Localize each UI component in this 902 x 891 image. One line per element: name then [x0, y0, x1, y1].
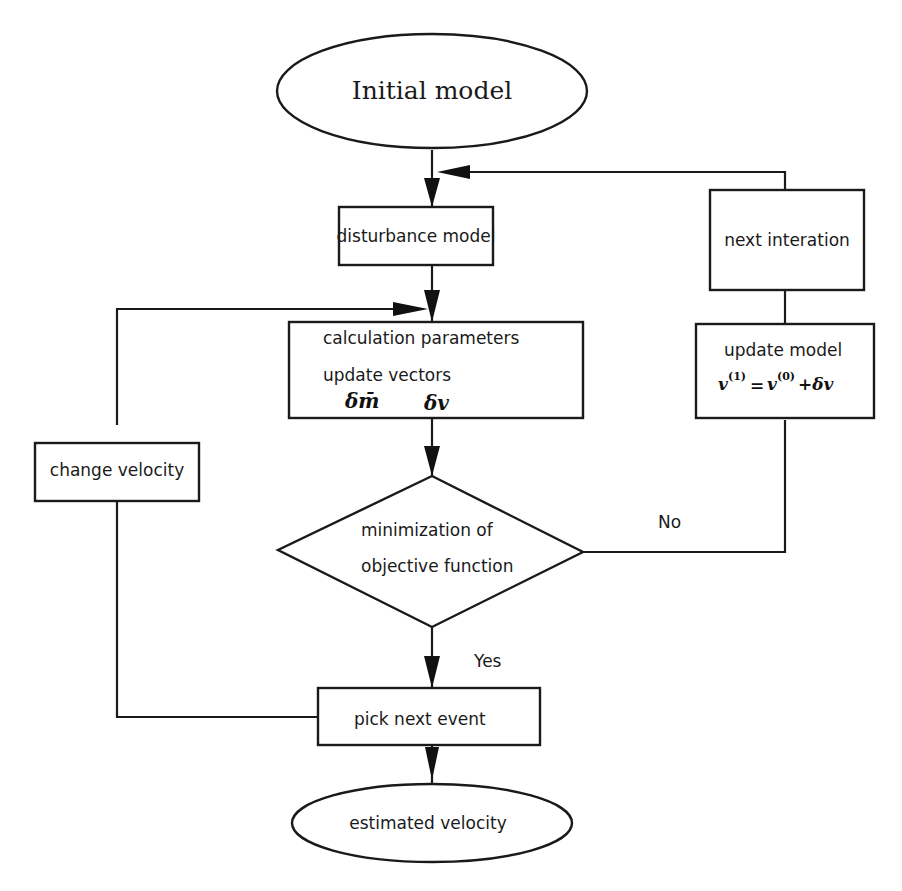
node-next-iteration: next interation: [710, 190, 864, 290]
update-vectors-label: update vectors: [323, 365, 451, 385]
node-disturbance-model: disturbance model: [337, 207, 496, 265]
edge-label-no: No: [658, 512, 681, 532]
arrowhead-down-icon: [424, 178, 440, 207]
node-initial-model: Initial model: [277, 34, 587, 148]
initial-model-label: Initial model: [352, 76, 512, 105]
delta-v-symbol: δv: [423, 391, 449, 415]
arrowhead-down-icon: [425, 747, 439, 780]
node-change-velocity: change velocity: [35, 443, 199, 501]
edge-pick-to-change-velocity: [117, 475, 318, 717]
arrowhead-down-icon: [424, 446, 440, 476]
node-calculation-parameters: calculation parameters update vectors δm…: [289, 322, 583, 418]
next-iteration-label: next interation: [724, 230, 850, 250]
edge-decision-no-to-update: [583, 420, 785, 552]
arrowhead-down-icon: [424, 656, 440, 688]
update-model-label: update model: [724, 340, 842, 360]
delta-m-symbol: δm̄: [344, 389, 380, 413]
arrowhead-down-icon: [424, 290, 440, 322]
change-velocity-label: change velocity: [50, 460, 184, 480]
node-update-model: update model v (1) = v (0) +δv: [696, 324, 874, 418]
svg-text:(1): (1): [728, 370, 746, 383]
svg-text:(0): (0): [777, 370, 795, 383]
edge-label-yes: Yes: [473, 651, 502, 671]
estimated-velocity-label: estimated velocity: [349, 813, 506, 833]
arrowhead-right-icon: [393, 302, 428, 316]
pick-next-event-label: pick next event: [354, 709, 486, 729]
svg-text:=: =: [750, 375, 764, 395]
calculation-parameters-label: calculation parameters: [323, 328, 519, 348]
svg-text:+δv: +δv: [798, 374, 835, 394]
node-decision: minimization of objective function: [278, 476, 583, 627]
node-pick-next-event: pick next event: [318, 688, 540, 745]
decision-label-line2: objective function: [361, 556, 513, 576]
arrowhead-left-icon: [437, 165, 470, 179]
edge-next-iteration-to-top: [450, 172, 785, 190]
disturbance-model-label: disturbance model: [337, 226, 496, 246]
node-estimated-velocity: estimated velocity: [292, 784, 572, 862]
decision-label-line1: minimization of: [361, 520, 494, 540]
flowchart: Initial model disturbance model calculat…: [0, 0, 902, 891]
